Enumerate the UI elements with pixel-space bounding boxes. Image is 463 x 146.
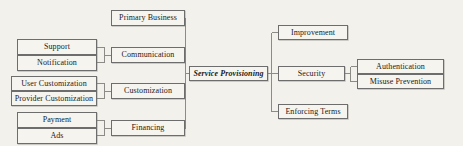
node-label: Communication xyxy=(122,51,175,59)
node-label: Security xyxy=(298,70,325,78)
node-label: Improvement xyxy=(291,29,335,37)
node-communication[interactable]: Communication xyxy=(111,47,185,63)
node-primary-business[interactable]: Primary Business xyxy=(111,10,185,26)
service-provisioning-diagram: Primary Business Communication Customiza… xyxy=(0,0,463,146)
node-label: Customization xyxy=(124,87,172,95)
node-financing[interactable]: Financing xyxy=(111,120,185,136)
node-label: Misuse Prevention xyxy=(370,78,431,86)
node-enforcing-terms[interactable]: Enforcing Terms xyxy=(278,104,348,119)
node-authentication[interactable]: Authentication xyxy=(357,59,444,74)
node-improvement[interactable]: Improvement xyxy=(278,25,348,40)
node-label: User Customization xyxy=(21,80,87,88)
node-notification[interactable]: Notification xyxy=(17,55,97,71)
node-label: Service Provisioning xyxy=(193,70,263,78)
node-provider-customization[interactable]: Provider Customization xyxy=(11,91,97,106)
node-label: Enforcing Terms xyxy=(285,108,340,116)
node-label: Primary Business xyxy=(119,14,177,22)
node-support[interactable]: Support xyxy=(17,39,97,55)
node-label: Authentication xyxy=(376,63,425,71)
node-label: Payment xyxy=(43,116,72,124)
node-label: Financing xyxy=(132,124,165,132)
node-misuse-prevention[interactable]: Misuse Prevention xyxy=(357,74,444,89)
node-label: Notification xyxy=(37,59,77,67)
node-label: Provider Customization xyxy=(15,95,93,103)
node-payment[interactable]: Payment xyxy=(17,112,97,128)
node-ads[interactable]: Ads xyxy=(17,128,97,144)
node-label: Ads xyxy=(50,132,63,140)
node-security[interactable]: Security xyxy=(278,66,345,81)
node-customization[interactable]: Customization xyxy=(111,83,185,99)
node-label: Support xyxy=(44,43,70,51)
node-service-provisioning[interactable]: Service Provisioning xyxy=(189,66,268,81)
node-user-customization[interactable]: User Customization xyxy=(11,76,97,91)
